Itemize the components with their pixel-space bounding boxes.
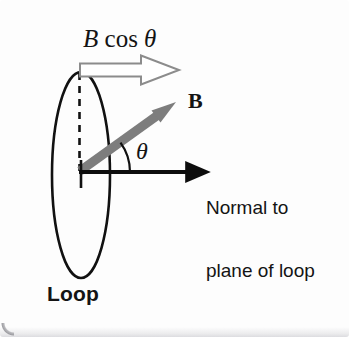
theta-label: θ xyxy=(136,139,148,163)
normal-label-line2: plane of loop xyxy=(206,260,315,281)
b-cos-theta-component-arrow xyxy=(80,56,179,85)
b-cos-theta-function: cos xyxy=(98,25,144,52)
b-cos-theta-angle: θ xyxy=(144,25,156,52)
theta-angle-arc xyxy=(121,143,131,172)
normal-label-line1: Normal to xyxy=(206,197,315,218)
b-vector-label: B xyxy=(188,90,203,112)
normal-label: Normal to plane of loop xyxy=(206,155,315,323)
b-cos-theta-label: B cos θ xyxy=(83,26,156,51)
loop-label: Loop xyxy=(47,283,99,304)
b-cos-theta-symbol: B xyxy=(83,25,98,52)
physics-diagram-figure: B cos θ B θ Normal to plane of loop Loop xyxy=(0,0,349,337)
